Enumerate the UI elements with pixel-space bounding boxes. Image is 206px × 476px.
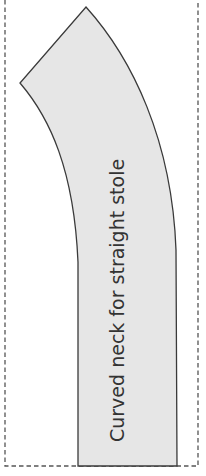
stole-pattern-diagram: Curved neck for straight stole <box>0 0 206 476</box>
piece-label: Curved neck for straight stole <box>106 159 128 442</box>
curved-neck-piece <box>20 7 177 466</box>
